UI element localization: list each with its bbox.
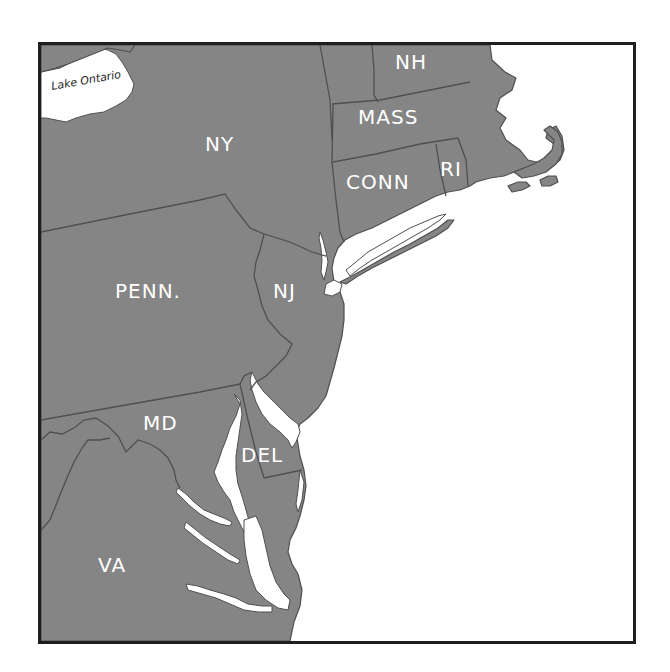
- label-ri: RI: [440, 157, 462, 181]
- label-nh: NH: [395, 50, 427, 74]
- label-va: VA: [98, 553, 126, 577]
- marthas-vineyard: [508, 182, 530, 192]
- label-ny: NY: [205, 132, 234, 156]
- label-penn: PENN.: [115, 279, 181, 303]
- label-nj: NJ: [273, 279, 296, 303]
- label-md: MD: [143, 411, 178, 435]
- map[interactable]: Lake Ontario NY NH MASS CONN RI PENN. NJ…: [0, 0, 670, 672]
- land-mass: [41, 45, 564, 641]
- nantucket: [540, 176, 558, 186]
- label-del: DEL: [241, 443, 283, 467]
- label-mass: MASS: [358, 105, 418, 129]
- label-conn: CONN: [346, 170, 410, 194]
